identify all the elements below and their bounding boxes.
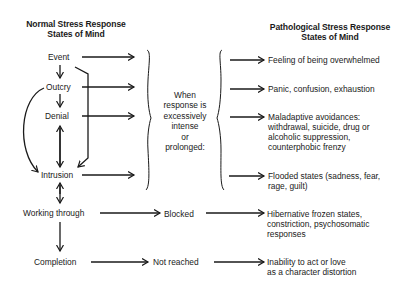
right-brace xyxy=(217,50,224,190)
arrow-outcry-intrusion xyxy=(24,88,44,172)
arrow-event-intrusion xyxy=(75,67,88,167)
left-brace xyxy=(146,50,151,190)
diagram-connectors xyxy=(0,0,420,291)
